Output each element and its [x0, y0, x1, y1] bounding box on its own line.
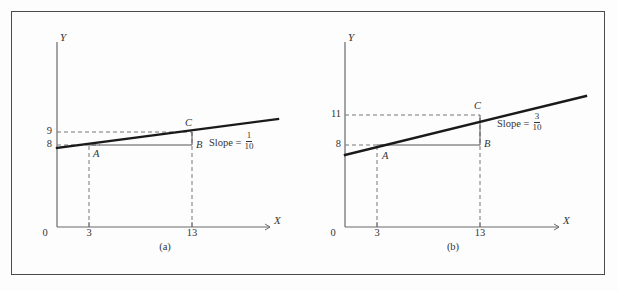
x-tick-label-13-a: 13: [185, 227, 199, 238]
point-label-c-b: C: [474, 100, 481, 111]
caption-a: (a): [145, 241, 185, 252]
caption-b: (b): [433, 241, 473, 252]
slope-annotation-a: Slope = 1 10: [209, 132, 253, 152]
point-label-b-b: B: [484, 138, 490, 149]
y-tick-label-8-b: 8: [321, 138, 341, 149]
y-axis-label-b: Y: [348, 31, 354, 43]
x-tick-label-3-a: 3: [82, 227, 96, 238]
x-tick-label-13-b: 13: [473, 227, 487, 238]
figure-root: Y X 0 3 13 9 8 A B C Slope = 1 10 (a): [0, 0, 618, 291]
panel-b: Y X 0 3 13 11 8 A B C Slope = 3 10 (b): [309, 0, 618, 291]
slope-word-b: Slope =: [497, 118, 529, 129]
slope-numerator-a: 1: [246, 131, 253, 142]
panel-a: Y X 0 3 13 9 8 A B C Slope = 1 10 (a): [0, 0, 309, 291]
origin-label-b: 0: [326, 227, 340, 238]
x-axis-label-a: X: [274, 214, 281, 226]
slope-annotation-b: Slope = 3 10: [497, 113, 541, 133]
point-label-a-b: A: [382, 150, 388, 161]
slope-numerator-b: 3: [534, 112, 541, 123]
origin-label-a: 0: [38, 227, 52, 238]
slope-fraction-b: 3 10: [532, 112, 541, 132]
x-axis-label-b: X: [563, 214, 570, 226]
slope-line-b: [345, 96, 586, 155]
x-tick-label-3-b: 3: [370, 227, 384, 238]
slope-fraction-a: 1 10: [244, 131, 253, 151]
slope-word-a: Slope =: [209, 137, 241, 148]
y-tick-label-9-a: 9: [40, 125, 52, 136]
point-label-b-a: B: [196, 139, 202, 150]
point-label-a-a: A: [93, 148, 99, 159]
y-tick-label-8-a: 8: [40, 138, 52, 149]
slope-denominator-a: 10: [244, 142, 253, 152]
y-tick-label-11-b: 11: [321, 108, 341, 119]
point-label-c-a: C: [185, 117, 192, 128]
slope-denominator-b: 10: [532, 123, 541, 133]
y-axis-label-a: Y: [60, 31, 66, 43]
